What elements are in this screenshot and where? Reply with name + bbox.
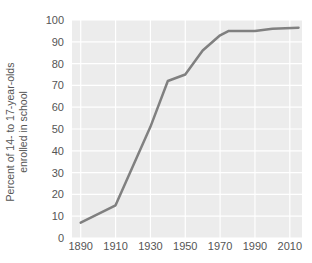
y-tick-label: 90 bbox=[52, 36, 64, 48]
y-axis-label-line1: Percent of 14- to 17-year-olds bbox=[4, 62, 16, 201]
x-tick-label: 1990 bbox=[243, 240, 267, 252]
x-tick-label: 1970 bbox=[208, 240, 232, 252]
chart-canvas bbox=[72, 20, 302, 238]
chart-figure: Percent of 14- to 17-year-olds enrolled … bbox=[0, 0, 312, 263]
data-series-group bbox=[81, 28, 299, 223]
x-tick-label: 1910 bbox=[103, 240, 127, 252]
y-tick-label: 40 bbox=[52, 145, 64, 157]
y-axis-label: Percent of 14- to 17-year-olds enrolled … bbox=[0, 0, 34, 263]
x-tick-label: 1930 bbox=[138, 240, 162, 252]
y-tick-label: 70 bbox=[52, 79, 64, 91]
y-tick-label: 80 bbox=[52, 58, 64, 70]
y-axis-ticks: 0102030405060708090100 bbox=[34, 20, 68, 238]
y-tick-label: 10 bbox=[52, 210, 64, 222]
x-tick-label: 1950 bbox=[173, 240, 197, 252]
y-tick-label: 20 bbox=[52, 188, 64, 200]
x-tick-label: 1890 bbox=[68, 240, 92, 252]
y-tick-label: 100 bbox=[46, 14, 64, 26]
y-tick-label: 0 bbox=[58, 232, 64, 244]
y-tick-label: 50 bbox=[52, 123, 64, 135]
plot-area bbox=[72, 20, 302, 238]
gridlines bbox=[72, 20, 302, 238]
x-axis-ticks: 1890191019301950197019902010 bbox=[72, 240, 302, 260]
x-tick-label: 2010 bbox=[278, 240, 302, 252]
y-tick-label: 30 bbox=[52, 167, 64, 179]
y-axis-label-line2: enrolled in school bbox=[17, 62, 30, 201]
y-tick-label: 60 bbox=[52, 101, 64, 113]
data-line bbox=[81, 28, 299, 223]
